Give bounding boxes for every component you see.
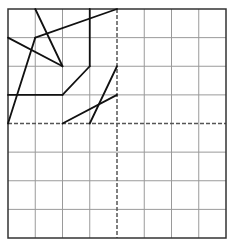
grid-diagram	[0, 0, 234, 245]
figure-segment	[35, 9, 117, 38]
figure-segment	[8, 38, 35, 124]
dashed-axes	[8, 9, 226, 238]
figure-segment	[63, 66, 90, 95]
